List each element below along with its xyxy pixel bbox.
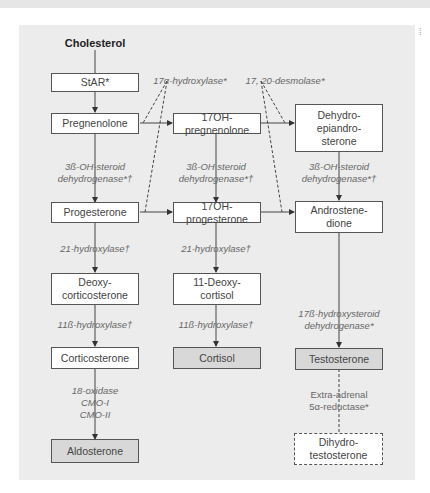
node-11-deoxycortisol: 11-Deoxy- cortisol xyxy=(173,273,261,305)
enzyme-17-20-desmolase: 17, 20-desmolase* xyxy=(245,75,324,87)
node-17oh-pregnenolone: 17OH-pregnenolone xyxy=(173,113,261,134)
node-17oh-progesterone: 17OH-progesterone xyxy=(173,202,261,223)
enzyme-21-hydroxylase-col2: 21-hydroxylase† xyxy=(181,243,251,255)
enzyme-17a-hydroxylase: 17α-hydroxylase* xyxy=(153,75,227,87)
enzyme-5a-reductase: Extra-adrenal 5α-reductase* xyxy=(309,389,368,413)
node-cortisol: Cortisol xyxy=(173,347,261,369)
node-corticosterone: Corticosterone xyxy=(51,347,139,369)
enzyme-3b-hsd-col2: 3ß-OH steroid dehydrogenase*† xyxy=(179,161,253,185)
enzyme-11b-hydroxylase-col2: 11ß-hydroxylase† xyxy=(179,319,254,331)
enzyme-18-oxidase: 18-oxidase CMO-I CMO-II xyxy=(72,385,118,421)
enzyme-3b-hsd-col3: 3ß-OH-steroid dehydrogenase*† xyxy=(302,161,376,185)
node-pregnenolone: Pregnenolone xyxy=(51,113,139,134)
node-cholesterol: Cholesterol xyxy=(65,37,126,49)
enzyme-11b-hydroxylase-col1: 11ß-hydroxylase† xyxy=(58,319,133,331)
node-androstenedione: Androstene- dione xyxy=(295,201,383,233)
dashed-desmolase-to-ohprog-arrow xyxy=(261,81,282,212)
node-aldosterone: Aldosterone xyxy=(51,439,139,463)
node-deoxycorticosterone: Deoxy- corticosterone xyxy=(51,273,139,305)
node-dhea: Dehydro- epiandro- sterone xyxy=(295,104,383,152)
node-testosterone: Testosterone xyxy=(295,348,383,370)
node-dihydrotestosterone: Dihydro- testosterone xyxy=(294,433,383,465)
node-star: StAR* xyxy=(51,73,139,92)
enzyme-3b-hsd-col1: 3ß-OH-steroid dehydrogenase*† xyxy=(58,161,132,185)
enzyme-17b-hsd: 17ß-hydroxysteroid dehydrogenase* xyxy=(298,308,379,332)
node-progesterone: Progesterone xyxy=(51,202,139,223)
enzyme-21-hydroxylase-col1: 21-hydroxylase† xyxy=(60,243,130,255)
